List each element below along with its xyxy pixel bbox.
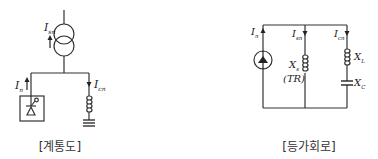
transformer-icon [54, 24, 74, 56]
arrow-down-icon [303, 31, 308, 36]
arrow-down-icon [345, 31, 350, 36]
label-xc: XC [353, 77, 366, 90]
caption-equivalent-circuit: [등가회로] [282, 140, 335, 154]
harmonic-source-icon [20, 96, 44, 121]
inductor-icon [302, 55, 308, 73]
caption-system-diagram: [계통도] [39, 140, 81, 154]
arrow-up-icon [261, 28, 266, 33]
label-icn-left: Icn [93, 78, 106, 92]
arrow-up-icon [25, 77, 30, 90]
equivalent-circuit: In Isn Xs (TR) Icn XL [250, 25, 366, 154]
label-xl: XL [353, 51, 365, 64]
label-in-right: In [250, 26, 259, 39]
arrow-down-icon [87, 82, 92, 87]
arrow-up-icon [48, 35, 53, 48]
label-isn-right: Isn [291, 28, 303, 41]
capacitor-icon [340, 81, 354, 85]
label-in-left: In [14, 79, 23, 93]
label-isn: Isn [43, 21, 55, 35]
label-icn-right: Icn [333, 28, 345, 41]
diagram-canvas: Isn In Icn [0, 0, 378, 159]
inductor-icon [87, 96, 92, 112]
system-diagram: Isn In Icn [14, 10, 106, 154]
label-tr: (TR) [283, 73, 305, 84]
label-xs: Xs [288, 59, 299, 72]
inductor-icon [344, 49, 350, 65]
current-source-icon [254, 51, 272, 69]
ground-icon [83, 120, 95, 126]
